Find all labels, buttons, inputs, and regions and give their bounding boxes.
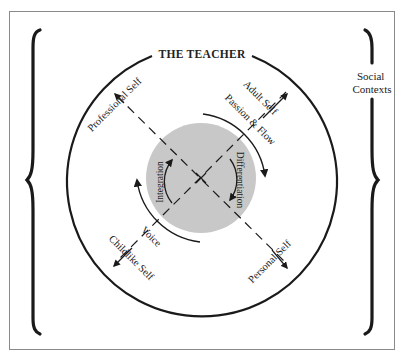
right-brace-bottom — [365, 99, 378, 334]
left-brace — [27, 30, 40, 334]
social-contexts-label: Social Contexts — [352, 70, 391, 95]
label-professional-self: Professional Self — [85, 75, 144, 134]
label-integration: Integration — [155, 161, 165, 203]
right-brace-top — [365, 30, 372, 63]
title-the-teacher: THE TEACHER — [158, 48, 246, 60]
label-differentiation: Differentiation — [235, 152, 245, 209]
label-personal-self: Personal Self — [246, 238, 294, 286]
label-voice: Voice — [139, 224, 164, 249]
teacher-diagram: Social Contexts THE TEACHER Professional… — [0, 0, 404, 358]
